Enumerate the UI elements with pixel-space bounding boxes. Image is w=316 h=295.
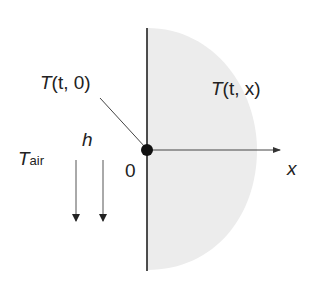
interior-temp-symbol: T	[211, 78, 223, 99]
interior-temp-args: (t, x)	[223, 78, 261, 99]
air-temp-symbol: T	[18, 148, 30, 169]
origin-dot	[141, 144, 153, 156]
origin-label: 0	[125, 161, 136, 180]
leader-line	[100, 98, 145, 147]
air-temp-label: Tair	[18, 149, 44, 168]
diagram-canvas	[0, 0, 316, 295]
heat-coefficient-label: h	[82, 130, 93, 149]
surface-temp-label: T(t, 0)	[40, 73, 91, 92]
surface-temp-symbol: T	[40, 72, 52, 93]
interior-temp-label: T(t, x)	[211, 79, 261, 98]
x-axis-label: x	[287, 159, 297, 178]
air-temp-subscript: air	[30, 153, 44, 168]
surface-temp-args: (t, 0)	[52, 72, 91, 93]
solid-region	[147, 28, 257, 270]
